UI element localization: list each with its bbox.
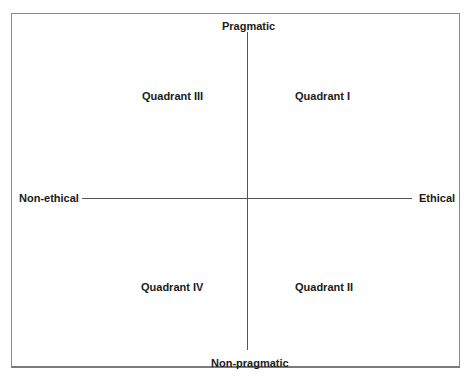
axis-label-non-pragmatic: Non-pragmatic xyxy=(211,357,289,369)
horizontal-axis-line xyxy=(82,198,412,199)
vertical-axis-line xyxy=(247,32,248,350)
quadrant-i-label: Quadrant I xyxy=(295,90,350,102)
quadrant-iii-label: Quadrant III xyxy=(142,90,203,102)
quadrant-iv-label: Quadrant IV xyxy=(141,281,203,293)
axis-label-non-ethical: Non-ethical xyxy=(19,192,79,204)
axis-label-pragmatic: Pragmatic xyxy=(222,20,275,32)
diagram-frame xyxy=(11,13,460,368)
quadrant-ii-label: Quadrant II xyxy=(295,281,353,293)
axis-label-ethical: Ethical xyxy=(419,192,455,204)
